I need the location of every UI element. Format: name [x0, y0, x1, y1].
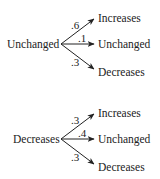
tree-unchanged: Unchanged .6 .1 .3 Increases Unchanged D… [7, 12, 151, 78]
outcome-node: Decreases [98, 66, 145, 78]
probability-label: .3 [71, 151, 80, 163]
probability-label: .1 [78, 32, 86, 44]
probability-label: .6 [71, 19, 80, 31]
source-node: Decreases [13, 133, 60, 145]
outcome-node: Unchanged [98, 38, 151, 51]
outcome-node: Increases [98, 12, 141, 24]
outcome-node: Decreases [98, 161, 145, 173]
probability-label: .3 [71, 114, 80, 126]
source-node: Unchanged [7, 38, 60, 51]
probability-tree-diagram: Unchanged .6 .1 .3 Increases Unchanged D… [0, 0, 160, 179]
probability-label: .3 [71, 56, 80, 68]
tree-decreases: Decreases .3 .4 .3 Increases Unchanged D… [13, 107, 151, 173]
outcome-node: Increases [98, 107, 141, 119]
outcome-node: Unchanged [98, 133, 151, 146]
probability-label: .4 [78, 127, 87, 139]
